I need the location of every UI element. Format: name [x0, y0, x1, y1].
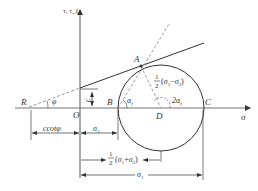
alpha-f-label: αf	[127, 96, 133, 106]
svg-text:2: 2	[109, 159, 113, 167]
point-a-label: A	[133, 54, 140, 64]
center-label: 1 2 (σ1+σ3)	[108, 150, 138, 167]
point-d-label: D	[155, 111, 163, 121]
origin-label: O	[73, 110, 80, 120]
svg-text:(σ1−σ3): (σ1−σ3)	[161, 77, 184, 87]
radius-label: 1 2 (σ1−σ3)	[154, 73, 184, 90]
phi-label: φ	[52, 97, 57, 106]
point-a	[140, 65, 143, 68]
cohesion-label: c	[83, 98, 92, 102]
sigma1-label: σ1	[137, 170, 143, 180]
tau-axis-label: τ, τ_f	[63, 7, 79, 15]
two-alpha-f-label: 2αf	[172, 96, 182, 106]
failure-plane-dashed	[118, 24, 169, 108]
svg-text:(σ1+σ3): (σ1+σ3)	[115, 155, 138, 165]
point-b-label: B	[107, 97, 113, 107]
svg-text:2: 2	[155, 82, 159, 90]
ccotphi-label: ccotφ	[43, 124, 61, 133]
svg-text:1: 1	[155, 73, 159, 81]
point-c-label: C	[205, 97, 212, 107]
phi-arc	[47, 101, 48, 108]
sigma-axis-label: σ	[241, 112, 246, 122]
point-r-label: R	[20, 97, 27, 107]
svg-text:1: 1	[109, 150, 113, 158]
mohr-coulomb-diagram: τ, τ_f σ O R A B C D φ αf 2αf c 1 2 (σ1−…	[0, 0, 258, 191]
sigma3-label: σ3	[93, 124, 100, 134]
